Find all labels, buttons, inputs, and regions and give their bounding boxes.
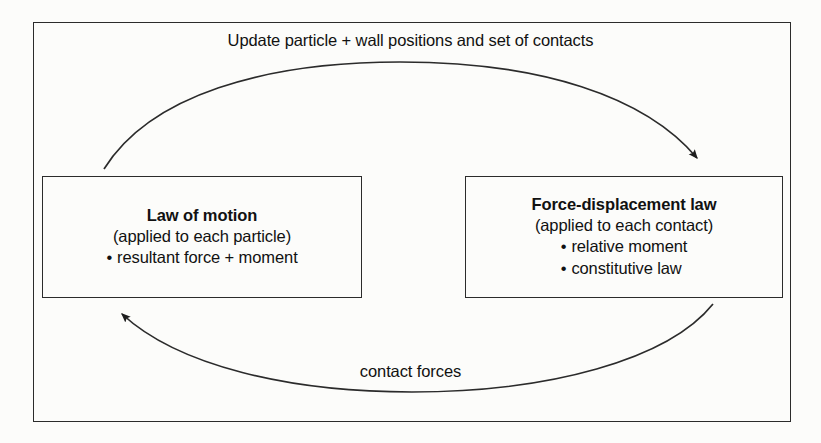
bullet-list-force-displacement: •relative moment •constitutive law (561, 236, 688, 280)
bullet-dot-icon: • (561, 236, 567, 258)
bullet-dot-icon: • (561, 258, 567, 280)
box-title-force-displacement: Force-displacement law (532, 194, 717, 215)
bullet-item: •resultant force + moment (106, 247, 297, 269)
box-title-law-of-motion: Law of motion (147, 205, 258, 226)
diagram-canvas: Update particle + wall positions and set… (0, 0, 821, 443)
bottom-flow-label: contact forces (0, 362, 821, 381)
bullet-list-law-of-motion: •resultant force + moment (106, 247, 297, 269)
top-flow-label: Update particle + wall positions and set… (0, 31, 821, 50)
process-box-force-displacement[interactable]: Force-displacement law (applied to each … (465, 176, 783, 298)
process-box-law-of-motion[interactable]: Law of motion (applied to each particle)… (42, 176, 362, 298)
bullet-dot-icon: • (106, 247, 112, 269)
box-subtitle-force-displacement: (applied to each contact) (535, 215, 713, 236)
bullet-text: resultant force + moment (117, 248, 298, 266)
bullet-text: relative moment (571, 237, 687, 255)
bullet-item: •constitutive law (561, 258, 688, 280)
box-subtitle-law-of-motion: (applied to each particle) (113, 226, 291, 247)
bullet-text: constitutive law (571, 259, 681, 277)
bullet-item: •relative moment (561, 236, 688, 258)
